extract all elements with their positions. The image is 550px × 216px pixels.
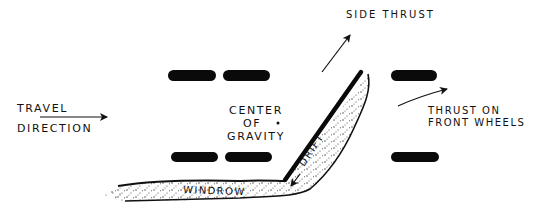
side-thrust-label: SIDE THRUST	[346, 8, 435, 21]
center-of-gravity-label-line1: CENTER	[226, 104, 286, 117]
travel-direction-label-line2: DIRECTION	[17, 122, 92, 135]
center-of-gravity-label-line2: OF	[222, 117, 282, 130]
front-wheel-thrust-label-line2: FRONT WHEELS	[428, 116, 525, 129]
rear-wheel-top-right	[223, 70, 270, 81]
front-wheel-top	[391, 70, 437, 81]
front-wheel-bottom	[391, 152, 439, 162]
rear-wheel-bottom-right	[225, 152, 272, 162]
side-thrust-arrow	[322, 35, 350, 72]
rear-wheel-top-left	[168, 70, 216, 81]
center-of-gravity-label-line3: GRAVITY	[226, 130, 286, 143]
rear-wheel-bottom-left	[171, 152, 218, 162]
motor-grader-force-diagram: DRIFT WINDROW TRAVEL DIRECTION CENTER OF…	[0, 0, 550, 216]
windrow-label: WINDROW	[183, 184, 246, 197]
travel-direction-label-line1: TRAVEL	[17, 102, 68, 115]
